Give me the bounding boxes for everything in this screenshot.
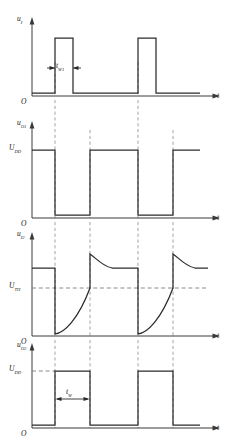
panel-ui [30,17,220,98]
uo2-tw-arrow-right [84,397,90,401]
ui2-x-axis-label: t [217,332,219,340]
ui2-threshold-label: UTH [9,282,20,292]
panel-ui2 [30,232,220,338]
ui-y-arrow [30,17,35,25]
ui2-waveform [32,254,208,334]
panel-uo2 [30,343,220,430]
ui-x-axis-label: t [217,92,219,100]
guide-lines-group [55,62,173,428]
uo1-x-axis-label: t [217,214,219,222]
uo1-y-arrow [30,121,35,129]
uo2-tw-arrow-left [56,397,62,401]
uo1-origin-label: O [21,220,26,228]
uo2-level-label: UDD [9,365,21,375]
uo2-origin-label: O [21,430,26,438]
ui-origin-label: O [21,98,26,106]
panel-uo1 [30,121,220,220]
uo1-level-label: UDD [9,144,21,154]
ui-y-axis-label: uI [17,15,22,25]
uo2-waveform [32,371,200,425]
uo2-y-arrow [30,343,35,351]
uo2-tw-label: tW [66,388,72,398]
uo1-waveform [32,150,200,215]
timing-diagram-svg [0,0,231,445]
ui2-y-axis-label: uI2 [17,230,25,240]
uo2-y-axis-label: uO2 [17,341,26,351]
ui-tw1-label: tW1 [56,62,64,72]
uo2-x-axis-label: t [217,424,219,432]
ui2-y-arrow [30,232,35,240]
uo1-y-axis-label: uO1 [17,119,26,129]
waveform-figure: uI O t tW1 uO1 UDD O t uI2 UTH O t uO2 U… [0,0,231,445]
